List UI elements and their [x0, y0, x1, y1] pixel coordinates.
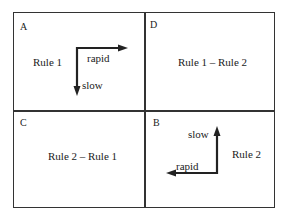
- arrow-slow-up-icon: [214, 126, 221, 174]
- arrows-layer: [0, 0, 287, 218]
- arrow-rapid-right-icon: [77, 45, 128, 52]
- arrow-rapid-left-icon: [166, 170, 218, 177]
- arrow-slow-down-icon: [74, 47, 81, 96]
